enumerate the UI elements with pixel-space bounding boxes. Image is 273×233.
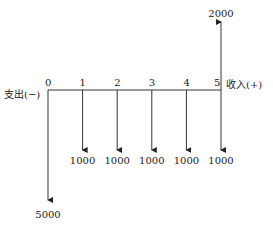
flow-amount-label: 5000 xyxy=(35,209,60,220)
flow-amount-label: 2000 xyxy=(208,8,233,19)
period-label: 3 xyxy=(149,77,155,88)
cash-flow-diagram: 支出(−) 收入(+) 012345 500010001000100010001… xyxy=(0,0,273,233)
period-label: 0 xyxy=(45,77,51,88)
flow-amount-label: 1000 xyxy=(70,155,95,166)
flow-amount-label: 1000 xyxy=(104,155,129,166)
flow-amount-label: 1000 xyxy=(208,155,233,166)
period-label: 1 xyxy=(80,77,86,88)
period-label: 2 xyxy=(114,77,120,88)
inflow-label: 收入(+) xyxy=(226,78,262,90)
period-label: 4 xyxy=(183,77,189,88)
period-label: 5 xyxy=(214,77,220,88)
flow-amount-label: 1000 xyxy=(139,155,164,166)
outflow-label: 支出(−) xyxy=(4,88,40,100)
flow-amount-label: 1000 xyxy=(174,155,199,166)
